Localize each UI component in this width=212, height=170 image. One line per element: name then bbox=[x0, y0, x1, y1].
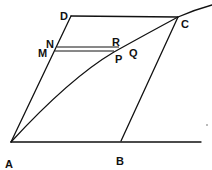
label-c: C bbox=[181, 18, 189, 30]
line-ad bbox=[11, 16, 71, 142]
line-dc bbox=[71, 16, 178, 17]
label-b: B bbox=[116, 155, 124, 167]
label-a: A bbox=[5, 158, 13, 170]
label-d: D bbox=[60, 10, 68, 22]
label-p: P bbox=[115, 53, 122, 65]
label-r: R bbox=[112, 36, 120, 48]
geometry-diagram: D C N M R P Q A B bbox=[0, 0, 212, 170]
label-m: M bbox=[38, 47, 47, 59]
label-q: Q bbox=[129, 47, 138, 59]
label-n: N bbox=[46, 38, 54, 50]
stray-dot bbox=[206, 124, 207, 125]
line-bc bbox=[121, 17, 178, 141]
